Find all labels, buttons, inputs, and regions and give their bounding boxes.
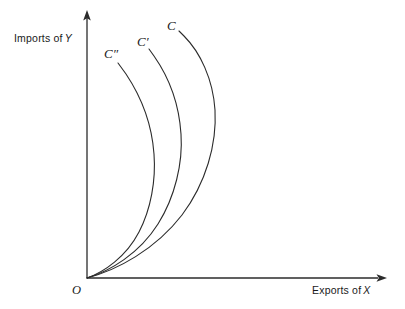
curve-label-c-double-prime: C″: [104, 47, 118, 60]
offer-curves-diagram: Imports ofY Exports ofX O C″ C′ C: [0, 0, 405, 309]
x-axis-arrowhead-icon: [377, 274, 388, 282]
curves-group: [87, 31, 215, 278]
y-axis-label: Imports ofY: [14, 33, 72, 44]
curve-c-double-prime: [87, 63, 154, 278]
curve-c-prime: [87, 49, 181, 278]
x-axis-variable: X: [361, 284, 370, 296]
y-axis: [83, 10, 91, 278]
x-axis: [87, 274, 387, 282]
origin-label: O: [72, 284, 81, 297]
diagram-canvas: [0, 0, 405, 309]
y-axis-label-text: Imports of: [14, 32, 63, 44]
x-axis-label: Exports ofX: [312, 285, 371, 296]
curve-label-c: C: [167, 19, 176, 32]
curve-label-c-prime: C′: [137, 35, 149, 48]
x-axis-label-text: Exports of: [312, 284, 361, 296]
curve-c: [87, 31, 215, 278]
y-axis-variable: Y: [63, 32, 72, 44]
